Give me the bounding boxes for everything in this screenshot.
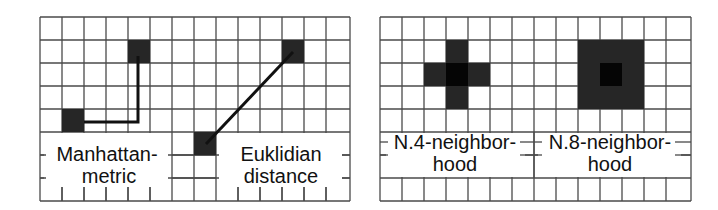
euclidian-line — [206, 52, 293, 144]
neighborhoods-panel: N.4-neighbor- hood N.8-neighbor- hood — [358, 0, 718, 210]
n8-neighborhood-figure — [578, 40, 644, 109]
n4-neighborhood-figure — [424, 40, 490, 109]
n8-label-line2: hood — [588, 153, 633, 175]
n4-label-line2: hood — [433, 153, 478, 175]
euclidian-label-line1: Euklidian — [240, 143, 321, 165]
distance-metrics-diagram: Manhattan- metric Euklidian distance — [0, 0, 360, 210]
n4-bottom-cell — [446, 86, 468, 109]
n4-label-line1: N.4-neighbor- — [394, 131, 516, 153]
manhattan-label-line2: metric — [82, 165, 136, 187]
neighborhoods-diagram: N.4-neighbor- hood N.8-neighbor- hood — [358, 0, 718, 210]
manhattan-label-line1: Manhattan- — [56, 143, 157, 165]
n8-center-cell — [600, 63, 622, 86]
n4-center-cell — [446, 63, 468, 86]
euclidian-label-line2: distance — [244, 165, 319, 187]
n8-label-line1: N.8-neighbor- — [549, 131, 671, 153]
manhattan-path — [84, 56, 138, 122]
n4-right-cell — [468, 63, 490, 86]
n4-left-cell — [424, 63, 446, 86]
manhattan-start-cell — [62, 109, 84, 132]
n4-top-cell — [446, 40, 468, 63]
distance-metrics-panel: Manhattan- metric Euklidian distance — [0, 0, 360, 210]
